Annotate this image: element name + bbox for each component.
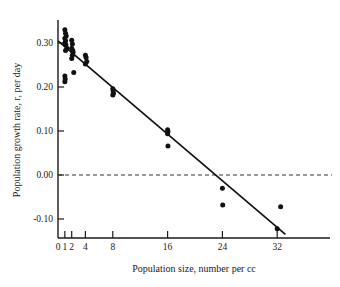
data-point [63, 48, 68, 53]
fit-line [58, 41, 285, 235]
data-point [278, 204, 283, 209]
scatter-plot-figure: 01248162432 -0.100.000.100.200.30 Popula… [0, 0, 340, 287]
data-point [70, 41, 75, 46]
data-point [62, 79, 67, 84]
x-tick-label: 24 [218, 242, 228, 252]
x-tick-label: 16 [163, 242, 173, 252]
x-tick-label: 2 [69, 242, 74, 252]
y-tick-label: -0.10 [33, 214, 53, 224]
data-point [71, 70, 76, 75]
data-point [220, 202, 225, 207]
y-tick-label: 0.30 [36, 38, 53, 48]
x-tick-label: 0 [56, 242, 61, 252]
data-points [62, 27, 283, 231]
y-tick-label: 0.10 [36, 126, 53, 136]
x-tick-label: 4 [83, 242, 88, 252]
x-axis-ticks: 01248162432 [56, 231, 283, 252]
data-point [220, 186, 225, 191]
x-tick-label: 32 [272, 242, 282, 252]
data-point [83, 62, 88, 67]
data-point [69, 56, 74, 61]
y-axis-ticks: -0.100.000.100.200.30 [33, 38, 64, 224]
x-axis-title: Population size, number per cc [132, 263, 256, 274]
data-point [110, 92, 115, 97]
x-tick-label: 1 [62, 242, 67, 252]
data-point [165, 131, 170, 136]
y-axis-title: Population growth rate, r, per day [11, 63, 22, 197]
plot-canvas: 01248162432 -0.100.000.100.200.30 Popula… [0, 0, 340, 287]
y-tick-label: 0.20 [36, 82, 53, 92]
regression-fit-line [58, 41, 285, 235]
x-tick-label: 8 [110, 242, 115, 252]
data-point [165, 143, 170, 148]
data-point [275, 226, 280, 231]
y-tick-label: 0.00 [36, 170, 53, 180]
